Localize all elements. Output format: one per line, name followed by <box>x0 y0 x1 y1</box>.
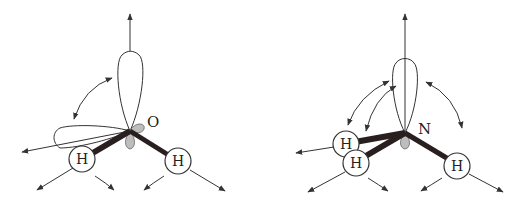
h-right-displacement-arrow <box>190 170 225 191</box>
small-curved-arrow-right <box>144 176 164 190</box>
lone-pair-lobe-upper <box>118 51 143 131</box>
bend-double-arrow <box>74 78 112 119</box>
h-right-displacement-arrow <box>469 174 503 192</box>
h-front-displacement-arrow <box>308 172 345 192</box>
bend-double-arrow-right <box>426 82 462 128</box>
svg-text:H: H <box>350 155 362 171</box>
svg-text:H: H <box>76 151 88 167</box>
nitrogen-label: N <box>418 120 431 138</box>
svg-text:H: H <box>340 136 352 152</box>
svg-text:H: H <box>172 153 184 169</box>
small-curved-arrow-left <box>368 178 388 191</box>
small-curved-arrow-left <box>95 176 114 190</box>
water-molecule: H H O <box>22 14 225 191</box>
h-back-displacement-arrow <box>296 147 334 153</box>
h-left-displacement-arrow <box>37 168 73 190</box>
hydrogen-atom-right: H <box>165 148 191 174</box>
svg-text:H: H <box>451 158 463 174</box>
bend-double-arrow-outer <box>348 81 389 125</box>
ammonia-molecule: H H H N <box>296 14 503 192</box>
small-curved-arrow-right <box>421 178 442 191</box>
hydrogen-atom-front: H <box>343 150 369 176</box>
hydrogen-atom-right: H <box>444 153 470 179</box>
bond-o-h-right <box>130 131 170 156</box>
molecular-diagram: H H O H H <box>0 0 519 206</box>
oxygen-label: O <box>147 113 159 131</box>
